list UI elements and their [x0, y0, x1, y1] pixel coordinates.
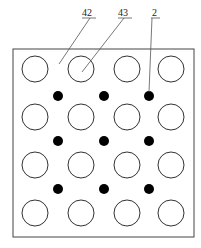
- solid-dot: [53, 184, 63, 194]
- solid-dot: [53, 136, 63, 146]
- hollow-circle: [114, 104, 140, 130]
- hollow-circle: [158, 200, 184, 226]
- hollow-circle: [22, 56, 48, 82]
- diagram-canvas: 42432: [0, 0, 201, 248]
- label-42: 42: [82, 7, 92, 18]
- leader-line: [82, 18, 124, 72]
- hollow-circle: [114, 56, 140, 82]
- hollow-circle: [158, 56, 184, 82]
- solid-dot: [53, 91, 63, 101]
- hollow-circle: [158, 152, 184, 178]
- solid-dot: [99, 91, 109, 101]
- hollow-circle: [22, 104, 48, 130]
- label-43: 43: [118, 7, 128, 18]
- hollow-circle: [114, 200, 140, 226]
- label-2: 2: [152, 7, 157, 18]
- hollow-circle: [22, 152, 48, 178]
- solid-dot: [99, 136, 109, 146]
- hollow-circle: [68, 152, 94, 178]
- solid-dot: [99, 184, 109, 194]
- solid-dot-grid: [53, 91, 154, 194]
- solid-dot: [144, 184, 154, 194]
- leader-line: [149, 18, 152, 92]
- hollow-circle: [68, 56, 94, 82]
- hollow-circle: [158, 104, 184, 130]
- solid-dot: [144, 136, 154, 146]
- hollow-circle: [68, 104, 94, 130]
- hollow-circle: [22, 200, 48, 226]
- hollow-circle: [114, 152, 140, 178]
- hollow-circle: [68, 200, 94, 226]
- solid-dot: [144, 91, 154, 101]
